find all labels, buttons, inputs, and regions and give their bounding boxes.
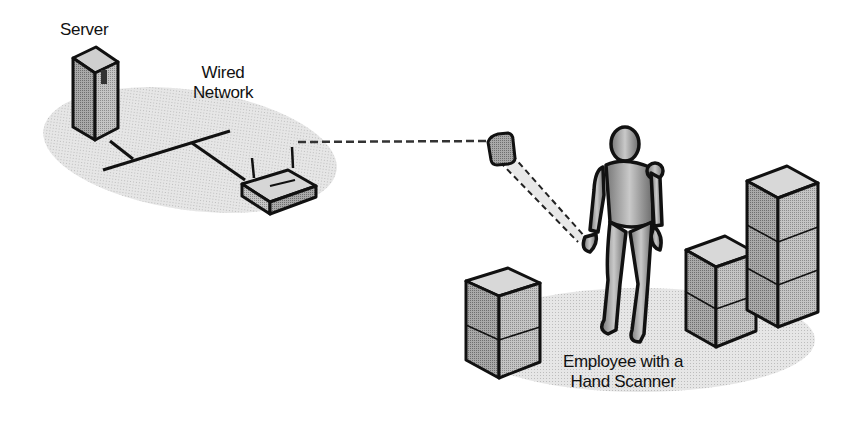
server-tower-icon: [73, 47, 118, 140]
network-diagram: [0, 0, 866, 421]
stacked-boxes-icon-left: [466, 268, 540, 378]
wired-network-label-line1: Wired: [183, 63, 263, 83]
employee-label-line2: Hand Scanner: [548, 372, 698, 392]
server-label: Server: [60, 20, 108, 40]
wired-network-label-line2: Network: [183, 83, 263, 103]
employee-label: Employee with a Hand Scanner: [548, 352, 698, 392]
employee-label-line1: Employee with a: [548, 352, 698, 372]
wired-network-label: Wired Network: [183, 63, 263, 103]
hand-scanner-icon: [488, 133, 515, 165]
scanner-beam: [500, 155, 586, 242]
wireless-link: [298, 141, 488, 142]
stacked-boxes-icon-tall: [747, 166, 818, 327]
